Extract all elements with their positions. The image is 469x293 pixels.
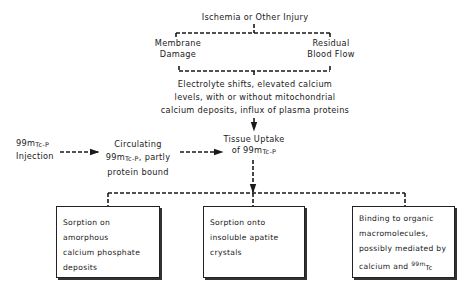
isotope-sub: Tc — [426, 264, 433, 272]
box-amorphous-calcium: Sorption on amorphous calcium phosphate … — [56, 206, 160, 278]
label-line: Circulating — [98, 138, 178, 151]
label-line: Damage — [148, 49, 208, 60]
node-residual-blood-flow: Residual Blood Flow — [300, 38, 362, 59]
isotope-prefix: 99m — [411, 260, 425, 267]
box-line: insoluble apatite — [210, 230, 298, 245]
label-line: Blood Flow — [300, 49, 362, 60]
box-line: Sorption onto — [210, 215, 298, 230]
label-line: Membrane — [148, 38, 208, 49]
label-of: of — [232, 145, 243, 155]
box-line: Sorption on amorphous — [63, 215, 153, 245]
box-line: macromolecules, — [359, 226, 448, 241]
box-line: crystals — [210, 245, 298, 260]
box-line: possibly mediated by — [359, 241, 448, 256]
isotope-prefix: 99m — [16, 138, 35, 148]
label-line: Electrolyte shifts, elevated calcium — [150, 78, 360, 91]
label-line: Injection — [16, 151, 54, 162]
label-line: Residual — [300, 38, 362, 49]
box-line: calcium phosphate — [63, 245, 153, 260]
box-line: calcium and — [359, 262, 411, 271]
label-line: Tissue Uptake — [216, 134, 292, 145]
isotope-sub: Tc-P — [35, 141, 49, 149]
box-organic-macromolecules: Binding to organic macromolecules, possi… — [352, 206, 455, 278]
label-line: protein bound — [98, 166, 178, 179]
box-apatite-crystals: Sorption onto insoluble apatite crystals — [203, 206, 305, 278]
node-ischemia: Ischemia or Other Injury — [180, 12, 330, 23]
box-line: Binding to organic — [359, 211, 448, 226]
isotope-prefix: 99m — [243, 145, 262, 155]
isotope-sub: Tc-P — [262, 148, 276, 156]
box-line: deposits — [63, 260, 153, 275]
isotope-prefix: 99m — [106, 152, 125, 162]
label-line: levels, with or without mitochondrial — [150, 91, 360, 104]
node-membrane-damage: Membrane Damage — [148, 38, 208, 59]
label-line: calcium deposits, influx of plasma prote… — [150, 104, 360, 117]
node-tissue-uptake: Tissue Uptake of 99mTc-P — [216, 134, 292, 158]
node-electrolyte-shifts: Electrolyte shifts, elevated calcium lev… — [150, 78, 360, 117]
label-suffix: , partly — [139, 152, 171, 162]
isotope-sub: Tc-P — [125, 155, 139, 163]
node-injection: 99mTc-P Injection — [16, 138, 54, 161]
node-circulating: Circulating 99mTc-P, partly protein boun… — [98, 138, 178, 179]
